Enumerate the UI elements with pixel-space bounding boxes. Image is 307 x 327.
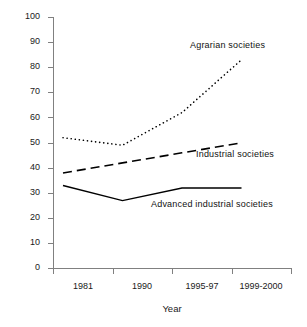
y-tick-label-10: 10 bbox=[14, 238, 40, 247]
y-tick-label-40: 40 bbox=[14, 163, 40, 172]
y-tick-label-20: 20 bbox=[14, 213, 40, 222]
x-axis-ticks bbox=[54, 269, 292, 275]
y-tick-label-50: 50 bbox=[14, 138, 40, 147]
line-chart: 100 90 80 70 60 50 40 30 20 10 0 1981 19… bbox=[0, 0, 307, 327]
y-tick-label-100: 100 bbox=[14, 12, 40, 21]
y-tick-label-30: 30 bbox=[14, 188, 40, 197]
y-tick-label-70: 70 bbox=[14, 87, 40, 96]
y-tick-label-0: 0 bbox=[14, 263, 40, 272]
series-line-agrarian-societies bbox=[63, 60, 242, 146]
y-axis-ticks bbox=[48, 18, 54, 269]
y-tick-label-90: 90 bbox=[14, 37, 40, 46]
x-axis-title: Year bbox=[162, 303, 181, 314]
y-tick-label-80: 80 bbox=[14, 62, 40, 71]
series-label-agrarian-societies: Agrarian societies bbox=[190, 40, 265, 50]
x-tick-label-1981: 1981 bbox=[73, 282, 93, 291]
x-tick-label-1990: 1990 bbox=[132, 282, 152, 291]
y-tick-label-60: 60 bbox=[14, 113, 40, 122]
x-tick-label-1995-97: 1995-97 bbox=[185, 282, 218, 291]
series-label-industrial-societies: Industrial societies bbox=[196, 149, 274, 159]
x-tick-label-1999-2000: 1999-2000 bbox=[239, 282, 282, 291]
series-label-advanced-industrial-societies: Advanced industrial societies bbox=[151, 199, 273, 209]
